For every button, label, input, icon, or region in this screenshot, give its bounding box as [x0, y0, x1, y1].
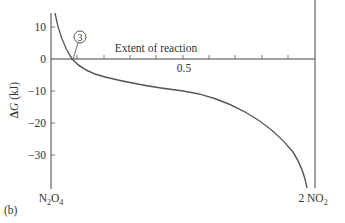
delta-g-curve: [55, 13, 307, 188]
x-ticks: [77, 55, 288, 59]
annotation-label: 3: [78, 32, 83, 43]
right-species-label: 2 NO2: [298, 192, 327, 207]
y-axis-title: ΔG (kJ): [8, 82, 21, 118]
x-tick-0-5: 0.5: [177, 62, 192, 74]
y-tick-minus-30: −30: [28, 149, 46, 161]
left-species-label: N2O4: [39, 192, 64, 207]
x-axis-title: Extent of reaction: [115, 42, 198, 54]
y-tick-minus-20: −20: [28, 117, 46, 129]
delta-g-chart: 10 0 −10 −20 −30 0.5 Extent of reaction …: [0, 0, 345, 223]
svg-text:ΔG (kJ): ΔG (kJ): [8, 82, 21, 118]
y-tick-minus-10: −10: [28, 85, 46, 97]
panel-label: (b): [4, 204, 18, 217]
y-tick-0: 0: [40, 53, 46, 65]
y-tick-10: 10: [35, 21, 47, 33]
y-ticks: [51, 27, 55, 155]
